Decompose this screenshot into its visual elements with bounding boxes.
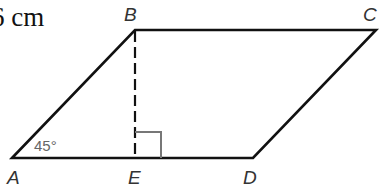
measurement-label: 6 cm <box>0 4 44 31</box>
diagram-canvas <box>0 0 384 193</box>
vertex-label-b: B <box>124 5 137 24</box>
vertex-label-d: D <box>243 168 257 187</box>
vertex-label-a: A <box>7 168 20 187</box>
vertex-label-c: C <box>363 5 377 24</box>
parallelogram-diagram: 6 cm B C A E D 45° <box>0 0 384 193</box>
angle-label-a: 45° <box>34 138 57 153</box>
right-angle-marker <box>135 132 161 158</box>
parallelogram-abcd <box>12 30 376 158</box>
vertex-label-e: E <box>128 168 141 187</box>
